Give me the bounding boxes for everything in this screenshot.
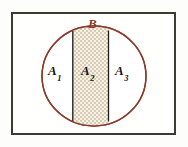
- region-a2-label-main: A: [81, 63, 90, 78]
- region-a3-label: A3: [115, 64, 128, 80]
- region-a3-label-sub: 3: [124, 73, 128, 83]
- region-a1-label-main: A: [48, 63, 57, 78]
- set-b-label: B: [88, 17, 97, 30]
- region-a1-label: A1: [48, 64, 61, 80]
- region-a1-label-sub: 1: [57, 73, 61, 83]
- region-a2-label-sub: 2: [90, 73, 94, 83]
- venn-diagram-figure: B A1 A2 A3: [0, 0, 188, 147]
- region-a2-label: A2: [81, 64, 94, 80]
- region-a3-label-main: A: [115, 63, 124, 78]
